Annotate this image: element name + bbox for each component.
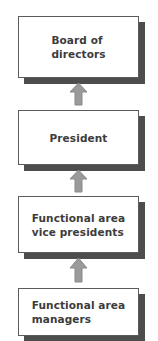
node-functional-area-managers[interactable]: Functional area managers [18, 288, 139, 336]
arrow-up-icon [69, 82, 88, 106]
arrow-up-icon [69, 257, 88, 283]
arrow-up-icon [69, 169, 88, 193]
node-president[interactable]: President [18, 110, 139, 165]
node-board-of-directors[interactable]: Board of directors [18, 16, 139, 78]
node-label: Functional area vice presidents [32, 211, 125, 239]
node-label: President [50, 131, 108, 145]
node-label: Board of directors [51, 33, 105, 61]
node-label: Functional area managers [32, 298, 125, 326]
org-hierarchy-diagram: Board of directors President Functional … [0, 0, 158, 341]
node-functional-area-vice-presidents[interactable]: Functional area vice presidents [18, 196, 139, 253]
